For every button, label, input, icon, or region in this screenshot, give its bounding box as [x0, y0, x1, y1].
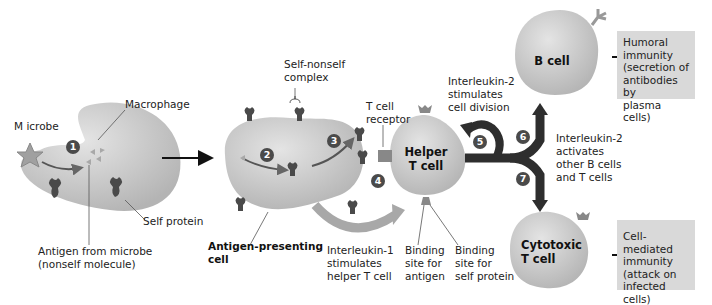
step-1-badge: 1: [66, 140, 80, 154]
cell-mediated-immunity-box: Cell-mediated immunity (attack on infect…: [617, 220, 695, 290]
il2-activates-label-3: other B cells: [556, 158, 621, 171]
il2-division-label-2: stimulates: [448, 88, 503, 101]
cytotoxic-label-1: Cytotoxic: [521, 238, 581, 252]
il2-division-label-3: cell division: [448, 101, 510, 114]
apc-label-2: cell: [208, 253, 229, 266]
step-3-badge: 3: [327, 134, 341, 148]
bind-antigen-label-2: site for: [405, 257, 442, 270]
il2-division-label-1: Interleukin-2: [448, 75, 515, 88]
humoral-immunity-box: Humoral immunity (secretion of antibodie…: [617, 31, 695, 99]
cell-mediated-line: Cell-mediated: [623, 230, 689, 255]
cell-mediated-line: (attack on: [623, 268, 689, 281]
step-4-badge: 4: [371, 174, 385, 188]
humoral-line: antibodies by: [623, 74, 689, 99]
step-5-badge: 5: [473, 135, 487, 149]
cytotoxic-label-2: T cell: [521, 252, 581, 266]
humoral-line: Humoral: [623, 36, 689, 49]
il1-label-1: Interleukin-1: [327, 244, 394, 257]
bind-self-label-3: self protein: [455, 270, 514, 283]
il2-activates-label-1: Interleukin-2: [556, 132, 623, 145]
bind-self-label-1: Binding: [455, 244, 495, 257]
antigen-label-2: (nonself molecule): [38, 258, 136, 271]
tcr-label-2: receptor: [366, 113, 410, 126]
self-nonself-label-1: Self-nonself: [284, 58, 345, 71]
step-7-badge: 7: [516, 172, 530, 186]
step-2-badge: 2: [260, 148, 274, 162]
antigen-label-1: Antigen from microbe: [38, 245, 152, 258]
tcr-label-1: T cell: [366, 100, 394, 113]
helper-t-cell-label-1: Helper: [404, 145, 448, 159]
il1-label-2: stimulates: [327, 257, 382, 270]
cell-mediated-line: infected cells): [623, 280, 689, 305]
bind-self-label-2: site for: [455, 257, 492, 270]
il1-label-3: helper T cell: [327, 270, 392, 283]
step-6-badge: 6: [516, 130, 530, 144]
apc-label-1: Antigen-presenting: [208, 240, 323, 253]
b-cell-label: B cell: [530, 54, 574, 68]
il2-activates-label-2: activates: [556, 145, 604, 158]
cell-mediated-line: immunity: [623, 255, 689, 268]
bind-antigen-label-1: Binding: [405, 244, 445, 257]
b-cell: [515, 10, 598, 95]
humoral-line: (secretion of: [623, 61, 689, 74]
bind-antigen-label-3: antigen: [405, 270, 445, 283]
humoral-line: plasma cells): [623, 99, 689, 124]
self-protein-label: Self protein: [143, 215, 203, 228]
humoral-line: immunity: [623, 49, 689, 62]
macrophage-label: Macrophage: [125, 98, 190, 111]
self-nonself-label-2: complex: [284, 71, 329, 84]
microbe-label: M icrobe: [14, 120, 59, 133]
il2-activates-label-4: and T cells: [556, 171, 612, 184]
helper-t-cell-label-2: T cell: [404, 159, 448, 173]
